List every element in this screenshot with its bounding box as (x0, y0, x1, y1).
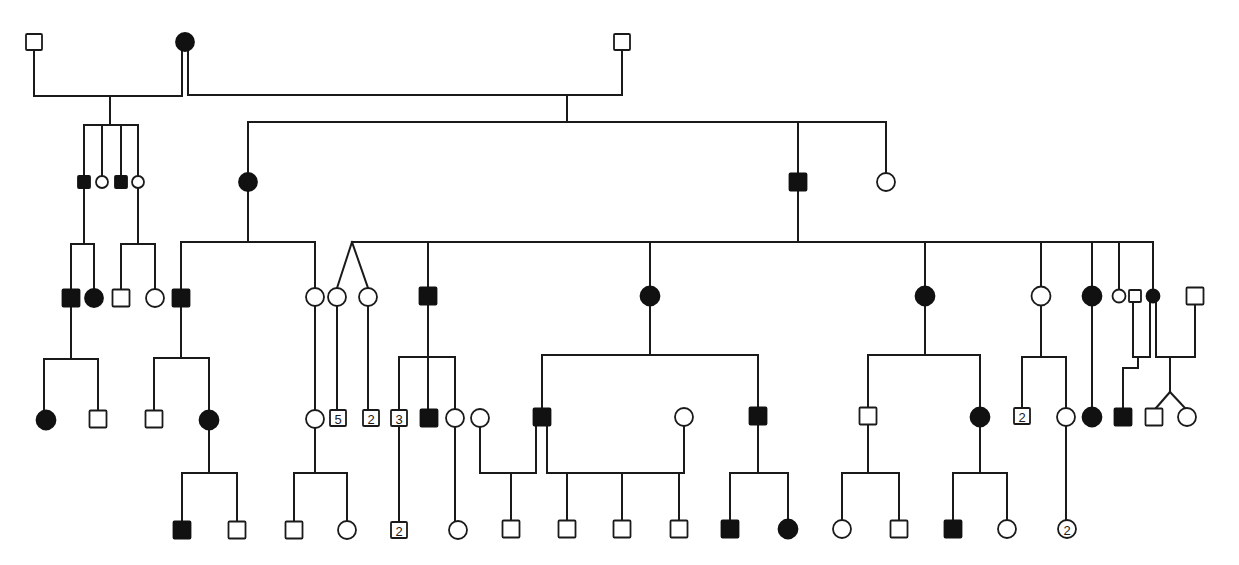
unaffected-female-circle-icon (449, 521, 467, 539)
affected-male-square-icon (1115, 409, 1132, 426)
individual-v-11 (722, 521, 739, 538)
unaffected-male-square-icon (90, 411, 107, 428)
individual-iv-19 (1083, 408, 1102, 427)
affected-female-circle-icon (779, 520, 798, 539)
individual-iii-17 (1187, 288, 1204, 305)
individual-v-12 (779, 520, 798, 539)
affected-male-square-icon (722, 521, 739, 538)
unaffected-female-circle-icon (675, 408, 693, 426)
individual-iii-13 (1083, 287, 1102, 306)
individual-iv-8: 3 (391, 410, 407, 427)
affected-male-square-icon (174, 522, 191, 539)
unaffected-male-square-icon (891, 521, 908, 538)
individual-iii-8 (359, 288, 377, 306)
affected-female-circle-icon (200, 411, 219, 430)
individual-iv-11 (471, 409, 489, 427)
individual-iv-18 (1057, 408, 1075, 426)
individual-iii-14 (1113, 290, 1126, 303)
individual-iv-13 (675, 408, 693, 426)
individual-iii-11 (916, 287, 935, 306)
affected-male-square-icon (790, 174, 807, 191)
unaffected-male-square-icon (614, 521, 631, 538)
unaffected-female-circle-icon (998, 520, 1016, 538)
individual-i-1 (26, 34, 42, 50)
affected-male-square-icon (115, 176, 127, 188)
individual-v-9 (614, 521, 631, 538)
individual-iv-6: 5 (330, 410, 346, 427)
affected-female-circle-icon (1147, 290, 1160, 303)
individual-iii-5 (173, 290, 190, 307)
individual-iii-1 (63, 290, 80, 307)
unaffected-female-circle-icon (833, 520, 851, 538)
individual-iv-9 (421, 410, 438, 427)
individual-v-1 (174, 522, 191, 539)
unaffected-female-circle-icon (96, 176, 108, 188)
unaffected-female-circle-icon (146, 289, 164, 307)
affected-female-circle-icon (85, 289, 103, 307)
individual-iii-6 (306, 288, 324, 306)
affected-female-circle-icon (1083, 287, 1102, 306)
individual-iii-9 (420, 288, 437, 305)
relationship-line (352, 242, 368, 288)
unaffected-female-circle-icon (306, 410, 324, 428)
sibship-count: 3 (395, 412, 402, 427)
unaffected-male-square-icon (1146, 409, 1163, 426)
unaffected-male-square-icon (26, 34, 42, 50)
unaffected-female-circle-icon (877, 173, 895, 191)
unaffected-female-circle-icon (1032, 287, 1051, 306)
individual-iv-14 (750, 408, 767, 425)
individual-v-17: 2 (1058, 520, 1076, 538)
individual-iv-7: 2 (363, 410, 379, 427)
individual-v-5: 2 (391, 522, 407, 539)
unaffected-female-circle-icon (359, 288, 377, 306)
individual-v-2 (229, 522, 246, 539)
individual-iv-1 (37, 411, 56, 430)
affected-male-square-icon (420, 288, 437, 305)
unaffected-male-square-icon (146, 411, 163, 428)
affected-female-circle-icon (239, 173, 257, 191)
individual-ii-4 (132, 176, 144, 188)
unaffected-male-square-icon (860, 408, 877, 425)
individual-ii-2 (96, 176, 108, 188)
sibship-count: 2 (1063, 523, 1070, 538)
individual-iv-16 (971, 408, 990, 427)
affected-male-square-icon (421, 410, 438, 427)
individual-ii-5 (239, 173, 257, 191)
relationship-line (337, 242, 352, 288)
individual-iv-3 (146, 411, 163, 428)
individual-v-7 (503, 521, 520, 538)
individual-v-10 (671, 521, 688, 538)
unaffected-male-square-icon (229, 522, 246, 539)
individual-iv-4 (200, 411, 219, 430)
individual-iv-21 (1146, 409, 1163, 426)
individual-iv-12 (534, 409, 551, 426)
unaffected-male-square-icon (286, 522, 303, 539)
individual-i-3 (614, 34, 630, 50)
affected-female-circle-icon (641, 287, 660, 306)
individual-v-3 (286, 522, 303, 539)
unaffected-female-circle-icon (132, 176, 144, 188)
relationship-lines (34, 50, 1195, 521)
unaffected-male-square-icon (614, 34, 630, 50)
individual-v-8 (559, 521, 576, 538)
affected-male-square-icon (173, 290, 190, 307)
individual-iv-17: 2 (1014, 408, 1030, 425)
individual-iii-4 (146, 289, 164, 307)
affected-female-circle-icon (1083, 408, 1102, 427)
unaffected-male-square-icon (503, 521, 520, 538)
individual-v-16 (998, 520, 1016, 538)
unaffected-female-circle-icon (1178, 408, 1196, 426)
individual-ii-7 (877, 173, 895, 191)
individual-iii-16 (1147, 290, 1160, 303)
sibship-count: 2 (395, 524, 402, 539)
individual-iv-5 (306, 410, 324, 428)
individual-v-4 (338, 521, 356, 539)
individual-iv-15 (860, 408, 877, 425)
relationship-line (1156, 392, 1170, 408)
sibship-count: 5 (334, 412, 341, 427)
affected-male-square-icon (534, 409, 551, 426)
unaffected-male-square-icon (1129, 290, 1141, 302)
individual-iv-22 (1178, 408, 1196, 426)
individual-iii-12 (1032, 287, 1051, 306)
individual-v-15 (945, 521, 962, 538)
